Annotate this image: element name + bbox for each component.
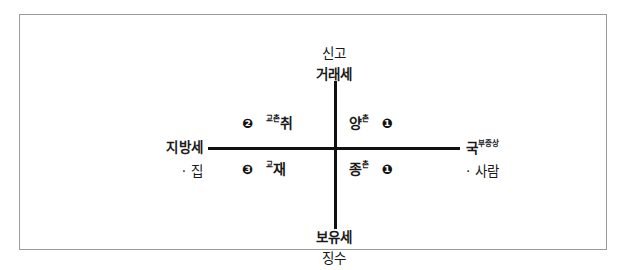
quadrant-bottom-left-term-base: 재 <box>273 161 286 177</box>
quadrant-bottom-right-term-base: 종 <box>349 161 362 177</box>
quadrant-bottom-left-superscript: 교 <box>266 160 273 169</box>
axis-label-top-upper: 신고 <box>322 47 346 61</box>
tax-quadrant-diagram: 신고 거래세 보유세 징수 지방세 · 집 국부증상 · 사람 ❷ 교촌취 양촌… <box>0 0 627 270</box>
quadrant-top-left-term-base: 취 <box>280 115 293 131</box>
quadrant-top-right: 양촌 ❶ <box>349 116 393 130</box>
axis-label-top-lower: 거래세 <box>316 68 353 82</box>
axis-label-left-upper: 지방세 <box>166 141 203 155</box>
quadrant-top-left: ❷ 교촌취 <box>242 116 293 130</box>
quadrant-bottom-right: 종촌 ❶ <box>349 162 393 176</box>
quadrant-bottom-left: ❸ 교재 <box>242 162 286 176</box>
axis-label-right-upper-superscript: 부증상 <box>478 139 498 148</box>
axis-label-right-upper-base: 국 <box>466 140 478 156</box>
diagram-frame: 신고 거래세 보유세 징수 지방세 · 집 국부증상 · 사람 ❷ 교촌취 양촌… <box>19 14 607 250</box>
quadrant-bottom-right-marker: ❶ <box>382 163 393 176</box>
axis-label-bottom-lower: 징수 <box>322 252 346 266</box>
quadrant-top-left-marker: ❷ <box>242 117 253 130</box>
axis-label-bottom-upper: 보유세 <box>316 231 353 245</box>
quadrant-bottom-right-superscript: 촌 <box>362 160 369 169</box>
quadrant-top-left-superscript: 교촌 <box>266 114 280 123</box>
quadrant-top-left-term: 교촌취 <box>266 116 293 130</box>
quadrant-bottom-right-term: 종촌 <box>349 162 369 176</box>
quadrant-bottom-left-marker: ❸ <box>242 163 253 176</box>
vertical-axis <box>334 81 337 229</box>
quadrant-top-right-superscript: 촌 <box>362 114 369 123</box>
quadrant-bottom-left-term: 교재 <box>266 162 286 176</box>
quadrant-top-right-term-base: 양 <box>349 115 362 131</box>
axis-label-left-lower: · 집 <box>182 165 203 179</box>
horizontal-axis <box>208 147 460 150</box>
quadrant-top-right-term: 양촌 <box>349 116 369 130</box>
axis-label-right-upper: 국부증상 <box>466 141 499 155</box>
axis-label-right-lower: · 사람 <box>466 165 499 179</box>
quadrant-top-right-marker: ❶ <box>382 117 393 130</box>
